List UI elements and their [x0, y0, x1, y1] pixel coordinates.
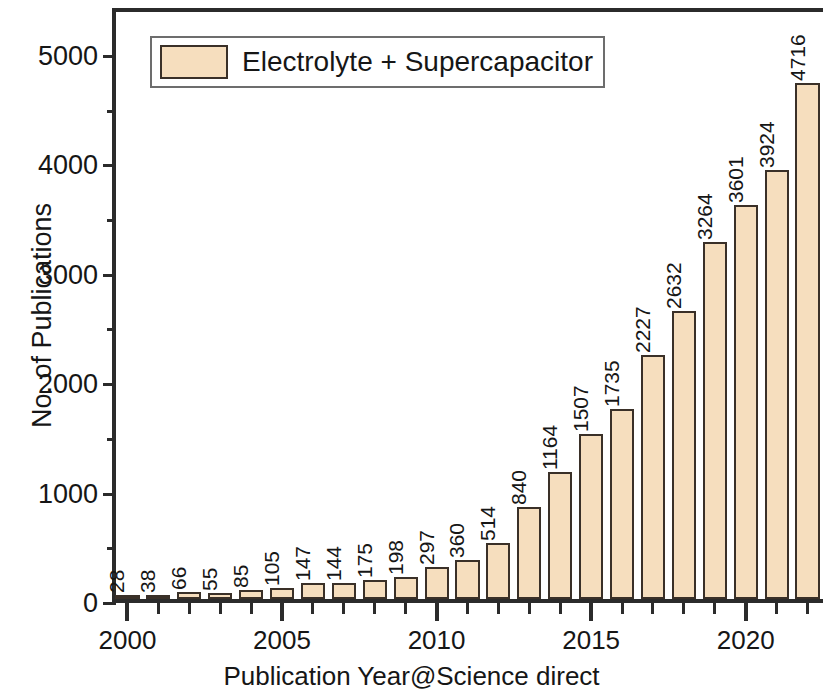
x-tick-major — [589, 603, 593, 621]
bar[interactable]: 105 — [270, 588, 294, 599]
bar[interactable]: 1507 — [579, 434, 603, 599]
legend-swatch-icon — [160, 45, 228, 79]
x-tick-label: 2015 — [562, 625, 620, 656]
bar[interactable]: 360 — [455, 560, 479, 599]
x-tick-minor — [806, 603, 809, 614]
bar[interactable]: 66 — [177, 592, 201, 599]
bar-value-label: 28 — [106, 581, 127, 604]
chart-legend: Electrolyte + Supercapacitor — [150, 36, 605, 88]
bar[interactable]: 55 — [208, 593, 232, 599]
x-tick-minor — [157, 603, 160, 614]
bar-value-label: 198 — [385, 558, 406, 593]
y-tick-label: 4000 — [38, 150, 98, 181]
bar-value-label: 38 — [137, 581, 158, 604]
y-tick-label: 1000 — [38, 478, 98, 509]
y-tick-label: 0 — [83, 588, 98, 619]
x-tick-minor — [404, 603, 407, 614]
bar-value-label: 147 — [292, 563, 313, 598]
x-tick-label: 2005 — [253, 625, 311, 656]
bar[interactable]: 147 — [301, 583, 325, 599]
bar-value-label: 514 — [477, 523, 498, 558]
y-tick-label: 3000 — [38, 259, 98, 290]
bar[interactable]: 2632 — [672, 311, 696, 599]
bar-value-label: 1507 — [570, 409, 591, 456]
x-tick-minor — [188, 603, 191, 614]
bar[interactable]: 198 — [394, 577, 418, 599]
bar[interactable]: 175 — [363, 580, 387, 599]
bar-value-label: 3924 — [756, 144, 777, 191]
x-tick-minor — [713, 603, 716, 614]
x-tick-minor — [528, 603, 531, 614]
bar-value-label: 840 — [508, 488, 529, 523]
bar[interactable]: 2227 — [641, 355, 665, 599]
bar[interactable]: 144 — [332, 583, 356, 599]
bar-value-label: 3264 — [694, 216, 715, 263]
bar-value-label: 1735 — [601, 384, 622, 431]
bar-value-label: 4716 — [787, 58, 808, 105]
x-tick-major — [435, 603, 439, 621]
bar-value-label: 85 — [230, 576, 251, 599]
x-tick-label: 2010 — [408, 625, 466, 656]
bar[interactable]: 1164 — [548, 472, 572, 599]
x-axis-ticks: 20002005201020152020 — [112, 603, 823, 663]
bar[interactable]: 297 — [425, 567, 449, 600]
bar[interactable]: 3601 — [734, 205, 758, 599]
bar[interactable]: 28 — [115, 595, 139, 599]
x-tick-major — [125, 603, 129, 621]
x-tick-minor — [250, 603, 253, 614]
legend-label: Electrolyte + Supercapacitor — [242, 46, 593, 78]
x-tick-minor — [682, 603, 685, 614]
y-axis-title: No. of Publications — [27, 136, 58, 496]
bar[interactable]: 4716 — [795, 83, 819, 599]
bar-value-label: 55 — [199, 579, 220, 602]
x-tick-minor — [775, 603, 778, 614]
bar[interactable]: 840 — [517, 507, 541, 599]
x-tick-minor — [311, 603, 314, 614]
bar[interactable]: 514 — [486, 543, 510, 599]
y-tick-label: 2000 — [38, 369, 98, 400]
bar-value-label: 105 — [261, 568, 282, 603]
x-axis-title: Publication Year@Science direct — [0, 661, 823, 692]
x-tick-minor — [621, 603, 624, 614]
bar-value-label: 144 — [323, 564, 344, 599]
x-tick-major — [744, 603, 748, 621]
x-tick-minor — [219, 603, 222, 614]
bar-series: 2838665585105147144175198297360514840116… — [112, 8, 823, 599]
bar-value-label: 2632 — [663, 286, 684, 333]
x-tick-minor — [497, 603, 500, 614]
bar[interactable]: 1735 — [610, 409, 634, 599]
x-tick-minor — [466, 603, 469, 614]
bar[interactable]: 85 — [239, 590, 263, 599]
bar-value-label: 1164 — [539, 447, 560, 492]
x-tick-minor — [342, 603, 345, 614]
x-tick-minor — [651, 603, 654, 614]
bar[interactable]: 3264 — [703, 242, 727, 599]
bar-value-label: 66 — [168, 578, 189, 601]
bar-value-label: 175 — [354, 560, 375, 595]
x-tick-major — [280, 603, 284, 621]
bar-value-label: 3601 — [725, 180, 746, 227]
x-tick-label: 2000 — [99, 625, 157, 656]
bar-value-label: 297 — [416, 547, 437, 582]
x-tick-label: 2020 — [717, 625, 775, 656]
bar-value-label: 2227 — [632, 330, 653, 377]
x-tick-minor — [373, 603, 376, 614]
bar-value-label: 360 — [446, 540, 467, 575]
x-tick-minor — [559, 603, 562, 614]
bar[interactable]: 3924 — [765, 170, 789, 599]
bar[interactable]: 38 — [146, 595, 170, 599]
y-tick-label: 5000 — [38, 40, 98, 71]
chart-figure: No. of Publications 01000200030004000500… — [0, 0, 823, 695]
